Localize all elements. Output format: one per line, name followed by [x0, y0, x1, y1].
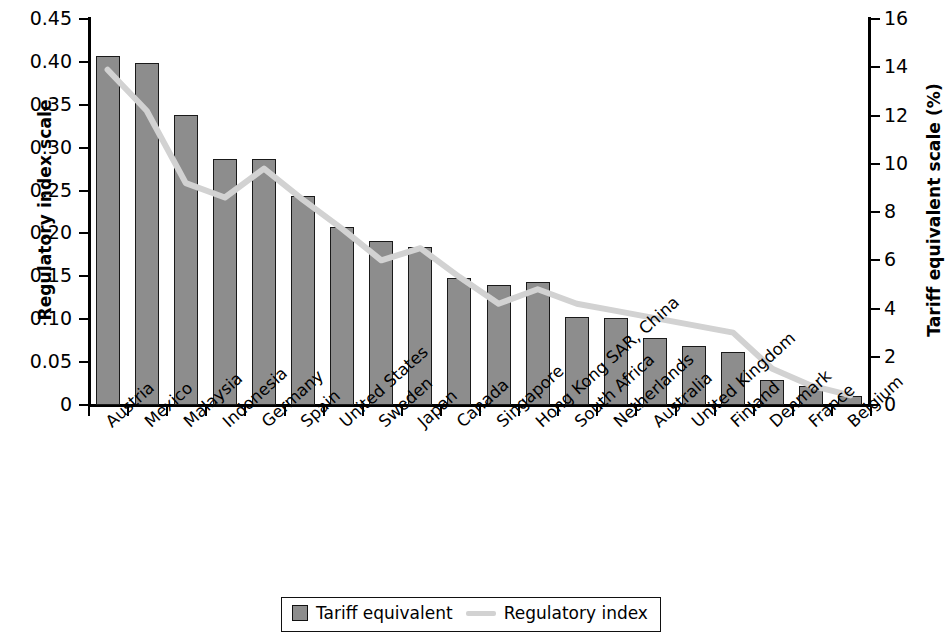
legend-line-icon — [466, 611, 496, 616]
chart-legend: Tariff equivalent Regulatory index — [281, 597, 661, 632]
x-axis-category-label: Belgium — [844, 372, 907, 431]
legend-item-regulatory-index: Regulatory index — [466, 603, 648, 623]
legend-item-tariff-equivalent: Tariff equivalent — [292, 603, 453, 623]
legend-label-regulatory-index: Regulatory index — [504, 603, 648, 623]
legend-square-icon — [292, 605, 308, 621]
legend-label-tariff-equivalent: Tariff equivalent — [316, 603, 453, 623]
